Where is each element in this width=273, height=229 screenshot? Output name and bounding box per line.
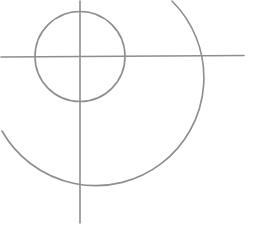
outer-arc [2,1,204,186]
horizontal-axis-line [1,56,244,58]
crosshair-diagram [0,0,273,229]
diagram-canvas [0,0,273,229]
